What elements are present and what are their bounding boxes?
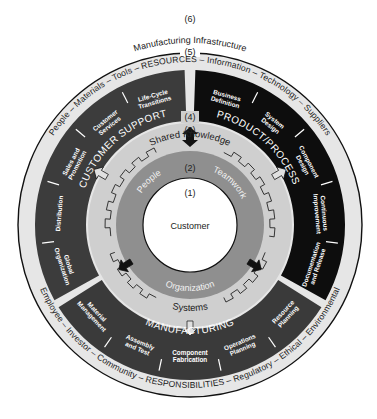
manufacturing-wheel-diagram: (6) Manufacturing Infrastructure (5) Peo… <box>0 0 377 419</box>
wheel-svg: (6) Manufacturing Infrastructure (5) Peo… <box>0 0 377 419</box>
level-4-label: (4) <box>185 112 196 122</box>
level-6-label: (6) <box>185 14 196 24</box>
segment-label-line: Fabrication <box>173 356 208 363</box>
customer-label: Customer <box>170 221 209 231</box>
level-2-label: (2) <box>185 163 196 173</box>
systems-label: Systems <box>172 300 209 313</box>
manufacturing-segment: ComponentFabrication <box>172 349 208 363</box>
level-1-label: (1) <box>185 188 196 198</box>
